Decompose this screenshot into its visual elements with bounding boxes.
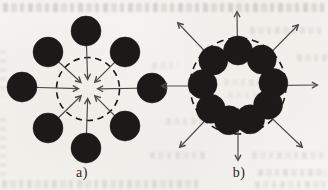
disc [199,46,228,75]
subfigure-a [7,16,167,163]
disc [110,111,140,141]
scanned-paper-figure: a) b) [0,0,328,190]
disc [110,37,140,67]
subfigure-b-label: b) [223,165,255,181]
subfigure-a-label: a) [66,165,98,181]
disc [7,72,37,102]
disc [71,133,101,163]
disc [71,16,101,46]
disc [137,73,167,103]
figure-canvas [0,0,328,190]
subfigure-b [162,12,317,160]
disc [33,113,63,143]
disc [33,37,63,67]
